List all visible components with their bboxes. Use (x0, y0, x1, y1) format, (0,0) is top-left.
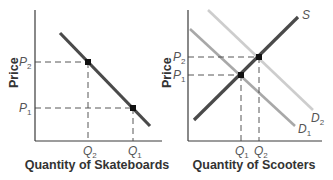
right-p1-label: P1 (173, 68, 186, 84)
right-x-title: Quantity of Scooters (193, 158, 316, 172)
left-p1-label: P1 (19, 101, 32, 117)
d2-label: D2 (311, 111, 325, 127)
d1-label: D1 (298, 122, 312, 138)
right-y-title: Price (160, 57, 174, 88)
skateboards-chart: P2 P1 Q2 Q1 Price Quantity of Skateboard… (7, 10, 169, 172)
right-supply-curve (194, 17, 298, 120)
right-point-p2 (256, 54, 262, 60)
scooters-chart: S D2 D1 P2 P1 Q1 Q2 Price Quantity of Sc… (160, 8, 325, 172)
left-y-title: Price (7, 57, 21, 88)
left-point-p1 (130, 105, 136, 111)
left-demand-curve (60, 33, 150, 126)
supply-label: S (302, 8, 310, 22)
right-point-p1 (238, 72, 244, 78)
left-point-p2 (85, 59, 91, 65)
figure: P2 P1 Q2 Q1 Price Quantity of Skateboard… (0, 0, 333, 180)
right-p2-label: P2 (173, 50, 186, 66)
left-x-title: Quantity of Skateboards (25, 158, 170, 172)
